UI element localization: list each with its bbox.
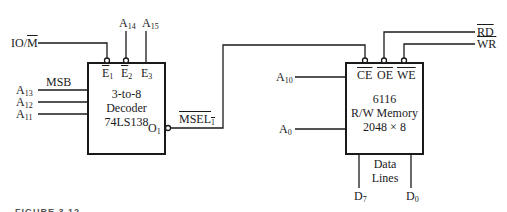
wr-label: WR [477, 38, 496, 50]
we-inversion-bubble [402, 58, 407, 63]
memory-title: 6116 R/W Memory 2048 × 8 [346, 92, 423, 134]
o1-name: O [148, 121, 157, 135]
msb-label: MSB [46, 76, 71, 88]
a10-sub: 10 [285, 76, 293, 85]
a14-sub: 14 [128, 22, 136, 31]
a15-label: A15 [142, 17, 159, 33]
e3-pin-label: E3 [141, 67, 152, 83]
msel-overbar: MSEL1 [179, 112, 215, 126]
figure-caption: FIGURE 3.12 [15, 207, 80, 212]
decoder-type: 3-to-8 [88, 87, 165, 101]
wr-text: WR [477, 37, 496, 51]
we-pin-label: WE [397, 69, 416, 81]
oe-pin-label: OE [377, 69, 393, 81]
e1-inversion-bubble [105, 58, 110, 63]
lines-label: Lines [362, 171, 408, 185]
a10-name: A [276, 70, 285, 84]
msel-label: MSEL1 [179, 113, 215, 129]
circuit-wiring [0, 0, 507, 212]
oe-inversion-bubble [382, 58, 387, 63]
wr-wire [404, 44, 475, 58]
a0-label: A0 [279, 123, 292, 139]
d7-name: D [354, 189, 363, 203]
d0-label: D0 [406, 190, 419, 206]
a10-label: A10 [276, 71, 293, 87]
o1-pin-label: O1 [148, 122, 161, 138]
a15-name: A [142, 16, 151, 30]
oe-text: OE [377, 68, 393, 82]
msel-sub: 1 [211, 118, 215, 127]
d7-label: D7 [354, 190, 367, 206]
decoder-kind: Decoder [88, 101, 165, 115]
a0-sub: 0 [288, 128, 292, 137]
o1-inversion-bubble [166, 126, 171, 131]
e2-inversion-bubble [124, 58, 129, 63]
e2-sub: 2 [128, 72, 132, 81]
a15-sub: 15 [151, 22, 159, 31]
msel-name: MSEL [179, 112, 211, 126]
a14-name: A [119, 16, 128, 30]
e1-sub: 1 [109, 72, 113, 81]
we-text: WE [397, 68, 416, 82]
d7-sub: 7 [363, 195, 367, 204]
memory-type: R/W Memory [346, 106, 423, 120]
a11-name: A [16, 107, 25, 121]
a0-name: A [279, 122, 288, 136]
m-overbar: M [27, 36, 38, 50]
e1-pin-label: E1 [102, 67, 113, 83]
e3-sub: 3 [148, 72, 152, 81]
io-prefix: IO/ [11, 36, 27, 50]
a11-label: A11 [16, 108, 32, 124]
ce-pin-label: CE [357, 69, 372, 81]
d0-sub: 0 [415, 195, 419, 204]
io-m-wire [38, 43, 107, 58]
o1-sub: 1 [157, 127, 161, 136]
memory-size: 2048 × 8 [346, 120, 423, 134]
d0-name: D [406, 189, 415, 203]
ce-text: CE [357, 68, 372, 82]
a11-sub: 11 [25, 113, 33, 122]
memory-part-number: 6116 [346, 92, 423, 106]
a14-label: A14 [119, 17, 136, 33]
data-lines-label: Data Lines [362, 157, 408, 185]
e2-pin-label: E2 [121, 67, 132, 83]
io-m-label: IO/M [11, 37, 38, 49]
data-label: Data [362, 157, 408, 171]
rd-wire [384, 32, 475, 58]
